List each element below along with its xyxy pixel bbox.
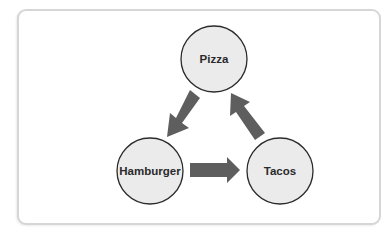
node-pizza: Pizza xyxy=(181,26,247,92)
arrow-tacos-to-pizza-icon xyxy=(230,93,265,140)
node-tacos: Tacos xyxy=(247,138,313,204)
arrow-pizza-to-hamburger-icon xyxy=(167,90,200,137)
node-hamburger: Hamburger xyxy=(117,138,183,204)
node-tacos-label: Tacos xyxy=(264,165,296,177)
arrow-hamburger-to-tacos-icon xyxy=(190,157,240,183)
node-hamburger-label: Hamburger xyxy=(119,165,181,177)
node-pizza-label: Pizza xyxy=(200,53,229,65)
